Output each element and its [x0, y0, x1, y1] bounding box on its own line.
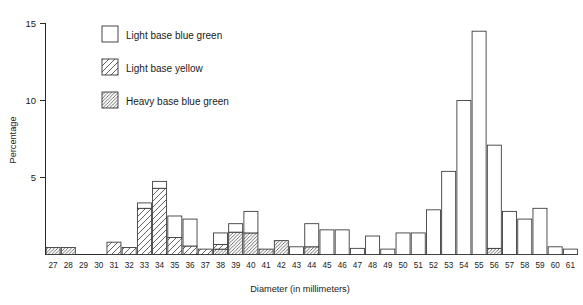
x-tick-label: 27	[49, 261, 59, 270]
x-tick-label: 47	[353, 261, 363, 270]
legend-label: Light base blue green	[126, 30, 222, 41]
x-tick-label: 57	[505, 261, 515, 270]
x-tick-group: 2728293031323334353637383940414243444546…	[49, 261, 576, 270]
bar-segment	[381, 249, 395, 254]
x-tick-label: 50	[398, 261, 408, 270]
x-tick-label: 34	[155, 261, 165, 270]
bar-segment	[472, 31, 486, 254]
x-tick-label: 35	[170, 261, 180, 270]
bar-segment	[396, 233, 410, 255]
x-tick-label: 58	[520, 261, 530, 270]
bar-segment	[518, 219, 532, 254]
x-tick-label: 38	[216, 261, 226, 270]
x-tick-label: 53	[444, 261, 454, 270]
legend-group: Light base blue greenLight base yellowHe…	[102, 26, 229, 108]
x-tick-label: 41	[262, 261, 272, 270]
bar-segment	[107, 242, 121, 254]
bar-segment	[244, 211, 258, 233]
bar-segment	[366, 236, 380, 254]
x-tick-label: 36	[185, 261, 195, 270]
x-tick-label: 42	[277, 261, 287, 270]
bar-segment	[411, 233, 425, 255]
x-tick-label: 29	[79, 261, 89, 270]
y-tick-label-5: 5	[31, 172, 36, 183]
bar-segment	[153, 188, 167, 254]
bar-segment	[487, 145, 501, 248]
x-tick-label: 52	[429, 261, 439, 270]
bar-segment	[168, 216, 182, 238]
bar-segment	[563, 249, 577, 254]
bar-segment	[442, 171, 456, 254]
bar-segment	[46, 248, 60, 255]
bar-segment	[183, 219, 197, 246]
x-tick-label: 46	[338, 261, 348, 270]
x-tick-label: 33	[140, 261, 150, 270]
bar-segment	[229, 232, 243, 254]
bar-segment	[61, 248, 75, 255]
x-tick-label: 39	[231, 261, 241, 270]
legend-swatch	[102, 26, 118, 42]
bar-segment	[548, 247, 562, 255]
x-tick-label: 28	[64, 261, 74, 270]
bar-segment	[426, 210, 440, 255]
bar-segment	[290, 247, 304, 255]
bar-segment	[168, 238, 182, 255]
bar-segment	[213, 233, 227, 245]
bar-segment	[320, 230, 334, 255]
bar-segment	[305, 247, 319, 255]
y-axis-label: Percentage	[8, 117, 18, 164]
x-tick-label: 61	[566, 261, 576, 270]
histogram-figure: 15 10 5 Percentage Diameter (in millimet…	[0, 0, 583, 305]
bar-segment	[350, 248, 364, 254]
bar-segment	[244, 233, 258, 255]
bar-segment	[183, 246, 197, 254]
x-tick-label: 49	[383, 261, 393, 270]
legend-label: Light base yellow	[126, 63, 203, 74]
x-tick-label: 37	[201, 261, 211, 270]
bar-segment	[198, 249, 212, 254]
y-tick-label-15: 15	[25, 18, 36, 29]
bar-segment	[122, 248, 136, 255]
bar-segment	[259, 249, 273, 254]
y-tick-label-10: 10	[25, 95, 36, 106]
x-tick-label: 32	[125, 261, 135, 270]
x-tick-label: 30	[94, 261, 104, 270]
x-tick-label: 40	[246, 261, 256, 270]
bar-segment	[305, 224, 319, 247]
bar-segment	[137, 203, 151, 208]
x-tick-label: 60	[551, 261, 561, 270]
x-tick-label: 31	[109, 261, 119, 270]
chart-canvas: 15 10 5 Percentage Diameter (in millimet…	[0, 0, 583, 305]
bar-segment	[213, 249, 227, 254]
legend-swatch	[102, 59, 118, 75]
x-axis-label: Diameter (in millimeters)	[250, 284, 350, 294]
legend-swatch	[102, 92, 118, 108]
x-tick-label: 44	[307, 261, 317, 270]
x-tick-label: 55	[475, 261, 485, 270]
bar-segment	[274, 241, 288, 255]
bar-segment	[137, 208, 151, 254]
bar-segment	[153, 181, 167, 188]
x-tick-label: 56	[490, 261, 500, 270]
bar-segment	[335, 230, 349, 255]
bar-segment	[229, 224, 243, 232]
x-tick-label: 54	[459, 261, 469, 270]
bar-segment	[503, 211, 517, 254]
x-tick-label: 59	[535, 261, 545, 270]
x-tick-label: 48	[368, 261, 378, 270]
bar-segment	[457, 101, 471, 255]
bar-segment	[213, 244, 227, 249]
bar-segment	[487, 248, 501, 254]
x-tick-label: 45	[322, 261, 332, 270]
x-tick-label: 43	[292, 261, 302, 270]
x-tick-label: 51	[414, 261, 424, 270]
legend-label: Heavy base blue green	[126, 96, 229, 107]
bar-segment	[533, 208, 547, 254]
